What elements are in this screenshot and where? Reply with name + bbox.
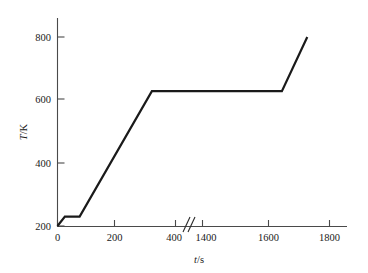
y-axis-title-unit: K [18, 123, 29, 131]
x-axis-title-unit: s [200, 254, 204, 265]
y-axis-title: T/K [18, 123, 29, 140]
x-tick-label-200: 200 [107, 232, 123, 243]
x-tick-label-1600: 1600 [258, 232, 279, 243]
y-tick-label-600: 600 [35, 94, 51, 105]
temperature-time-plot: 800 600 400 200 T/K [0, 0, 368, 273]
x-tick-label-400: 400 [166, 232, 182, 243]
y-tick-label-200: 200 [35, 221, 51, 232]
x-tick-label-1800: 1800 [319, 232, 340, 243]
x-tick-label-1400: 1400 [196, 232, 217, 243]
chart-figure: 800 600 400 200 T/K [0, 0, 368, 273]
x-tick-label-0: 0 [55, 232, 60, 243]
y-tick-label-800: 800 [35, 32, 51, 43]
y-axis-title-text: T/K [18, 123, 29, 140]
x-axis-title: t/s [194, 254, 204, 265]
y-tick-label-400: 400 [35, 158, 51, 169]
